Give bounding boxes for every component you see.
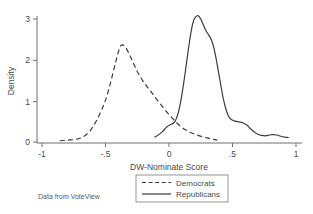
y-tick-label-3: 3: [25, 14, 30, 24]
x-tick-label-neg1: -1: [38, 149, 46, 159]
y-axis-ticks: [33, 19, 37, 142]
x-axis-title: DW-Nominate Score: [130, 162, 208, 172]
legend-label-democrats: Democrats: [176, 179, 215, 188]
chart-canvas: 0 1 2 3 Density -1 -.5 0 .5 1 DW-Nominat…: [0, 0, 313, 214]
legend: Democrats Republicans: [136, 175, 228, 202]
y-tick-label-2: 2: [25, 55, 30, 65]
y-axis-title: Density: [6, 66, 16, 95]
series-line-republicans: [155, 16, 288, 138]
y-tick-label-1: 1: [25, 97, 30, 107]
y-tick-label-0: 0: [25, 137, 30, 147]
density-plot-figure: 0 1 2 3 Density -1 -.5 0 .5 1 DW-Nominat…: [0, 0, 313, 214]
series-line-democrats: [60, 45, 217, 141]
x-tick-label-05: .5: [229, 149, 236, 159]
x-tick-label-0: 0: [167, 149, 172, 159]
legend-label-republicans: Republicans: [176, 190, 220, 199]
source-note: Data from VoteView: [38, 193, 101, 200]
x-tick-label-1: 1: [294, 149, 299, 159]
x-tick-label-neg05: -.5: [101, 149, 111, 159]
x-axis-ticks: [42, 143, 296, 147]
